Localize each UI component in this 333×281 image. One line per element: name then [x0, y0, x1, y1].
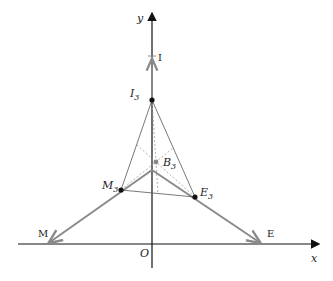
edge-I3-M3 — [121, 100, 152, 190]
edge-I3-E3 — [152, 100, 195, 197]
point-M3 — [118, 187, 123, 192]
label-M3: M3 — [101, 179, 118, 194]
vector-V-M — [50, 170, 152, 242]
point-B3 — [154, 160, 159, 165]
point-E3 — [192, 194, 197, 199]
label-I: I — [158, 52, 162, 63]
label-M: M — [38, 228, 48, 239]
label-E3: E3 — [199, 186, 213, 201]
label-B3: B3 — [162, 156, 176, 171]
point-I3 — [149, 97, 154, 102]
x-axis-label: x — [311, 252, 318, 265]
vector-V-E — [152, 170, 259, 242]
dashed-E3-mid — [137, 145, 195, 197]
origin-label: O — [140, 247, 149, 260]
label-I3: I3 — [129, 87, 139, 102]
y-axis-label: y — [136, 12, 144, 25]
dashed-B3-base — [156, 162, 158, 194]
diagram-canvas: y x O I I3 B3 M3 E3 M E — [0, 0, 333, 281]
label-E: E — [267, 228, 274, 239]
